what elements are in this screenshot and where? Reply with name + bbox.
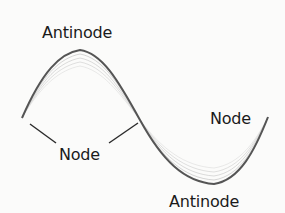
node-right-label: Node [210,111,251,127]
antinode-bottom-label: Antinode [169,194,239,210]
antinode-top-label: Antinode [42,25,112,41]
node-leader-line-left [30,124,56,143]
node-leader-line-right [109,123,138,143]
standing-wave-diagram: Antinode Node Node Antinode [0,0,285,213]
node-center-label: Node [59,147,100,163]
